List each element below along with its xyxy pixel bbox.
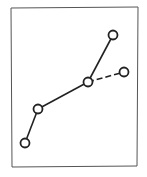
- node-A: [21, 139, 30, 148]
- node-E: [120, 68, 129, 77]
- edge-A-B: [25, 109, 38, 143]
- tree-diagram: [0, 0, 147, 177]
- node-D: [109, 31, 118, 40]
- edges-group: [25, 35, 124, 143]
- node-C: [84, 78, 93, 87]
- edge-B-C: [38, 82, 88, 109]
- edge-C-D: [88, 35, 113, 82]
- node-B: [34, 105, 43, 114]
